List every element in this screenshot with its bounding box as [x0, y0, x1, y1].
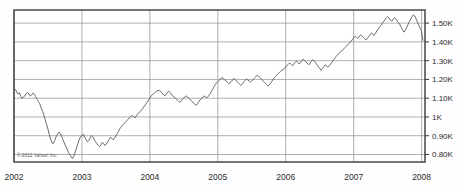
- y-axis-label-1.30K: 1.30K: [432, 57, 454, 66]
- y-axis-label-1.50K: 1.50K: [432, 19, 454, 28]
- chart-canvas: 1.50K1.40K1.30K1.20K1.10K1K0.90K0.80K 20…: [0, 0, 464, 189]
- x-axis-label-2002: 2002: [5, 172, 24, 182]
- x-axis-label-2006: 2006: [276, 172, 295, 182]
- x-axis-label-2008: 2008: [412, 172, 431, 182]
- x-axis-label-2005: 2005: [208, 172, 227, 182]
- x-axis-label-2004: 2004: [140, 172, 159, 182]
- y-axis-label-0.90K: 0.90K: [432, 132, 454, 141]
- y-axis-label-1.20K: 1.20K: [432, 75, 454, 84]
- stock-price-chart: 1.50K1.40K1.30K1.20K1.10K1K0.90K0.80K 20…: [0, 0, 464, 189]
- y-axis-label-1.40K: 1.40K: [432, 38, 454, 47]
- x-axis-label-2007: 2007: [344, 172, 363, 182]
- y-axis-label-1.10K: 1.10K: [432, 94, 454, 103]
- plot-area-background: [14, 10, 425, 162]
- x-axis-label-2003: 2003: [72, 172, 91, 182]
- copyright-credit: © 2012 Yahoo! Inc.: [17, 152, 58, 158]
- y-axis-label-1K: 1K: [432, 113, 442, 122]
- y-axis-label-0.80K: 0.80K: [432, 150, 454, 159]
